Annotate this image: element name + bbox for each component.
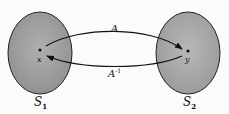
point-y	[186, 49, 189, 52]
arrow-a-inverse-sup: -1	[115, 67, 121, 74]
arrow-a-label: A	[111, 24, 118, 34]
point-y-label: y	[185, 56, 190, 64]
set-s1-letter: S	[34, 95, 42, 109]
set-s1-ellipse	[8, 12, 72, 94]
arrow-a-inverse-label: A-1	[108, 68, 121, 79]
set-s1-subscript: 1	[42, 102, 47, 111]
set-s2-letter: S	[183, 95, 191, 109]
set-s2-subscript: 2	[191, 102, 196, 111]
point-x	[38, 48, 41, 51]
set-s2-label: S2	[183, 96, 196, 110]
set-s2-ellipse	[156, 12, 220, 94]
set-s1-label: S1	[34, 96, 47, 110]
point-x-label: x	[37, 56, 42, 64]
diagram-canvas: x y A A-1 S1 S2	[0, 0, 229, 114]
